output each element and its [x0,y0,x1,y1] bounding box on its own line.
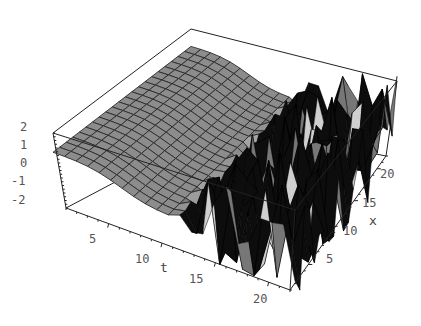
t-tick: 10 [135,252,149,266]
z-axis-labels: 2 1 0 -1 -2 [11,120,27,207]
tick-mark [214,263,215,267]
z-tick: 0 [20,156,27,170]
x-tick: 10 [343,224,357,238]
tick-mark [268,282,269,286]
t-tick: 20 [253,292,267,306]
z-tick: -2 [11,193,25,207]
x-axis-label: x [369,213,377,228]
t-tick: 5 [89,232,96,246]
x-tick: 5 [326,252,333,266]
tick-mark [161,243,162,247]
x-tick: 20 [380,167,394,181]
surface-plot: 2 1 0 -1 -2 5 10 15 20 t 5 10 15 20 x [0,0,421,326]
t-axis-label: t [160,260,168,275]
surface [53,46,397,290]
z-tick: 2 [20,120,27,134]
t-tick: 15 [189,272,203,286]
plot-canvas: 2 1 0 -1 -2 5 10 15 20 t 5 10 15 20 x [0,0,421,326]
tick-mark [108,224,109,228]
z-tick: 1 [20,138,27,152]
x-tick: 15 [362,196,376,210]
z-tick: -1 [11,174,25,188]
